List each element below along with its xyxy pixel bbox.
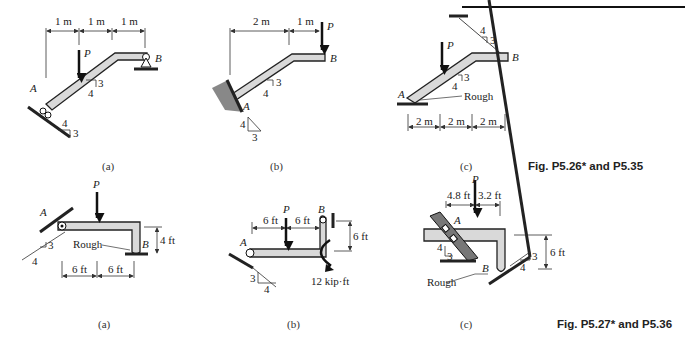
point-label: B xyxy=(142,238,149,250)
slope-triangle xyxy=(458,75,462,81)
slope-label: 3 xyxy=(73,127,79,139)
panel-label: (b) xyxy=(287,318,300,331)
slope-label: 3 xyxy=(276,76,282,88)
slope-label: 4 xyxy=(480,24,486,36)
figure-caption: Fig. P5.27* and P5.36 xyxy=(557,318,672,330)
panel-5-26-c: 4 3 B P A Rough 3 4 2 m 2 m 2 m (c) xyxy=(397,16,519,173)
panel-5-26-b: 2 m 1 m P B A 4 3 3 4 (b) xyxy=(212,15,337,173)
dim-label: 6 ft xyxy=(263,214,278,226)
slope-triangle xyxy=(258,272,276,283)
panel-5-27-b: 6 ft 6 ft A P B 12 kip·ft 6 ft 3 4 (b) xyxy=(229,203,368,331)
slope-label: 4 xyxy=(264,283,270,295)
dim-label: 1 m xyxy=(55,15,72,27)
point-label: A xyxy=(453,214,461,226)
point-label: A xyxy=(397,88,405,100)
dim-label: 6 ft xyxy=(72,263,87,275)
slope-label: 4 xyxy=(88,87,94,99)
dim-label: 3.2 ft xyxy=(478,189,501,201)
slope-label: 4 xyxy=(437,241,443,253)
point-label: A xyxy=(242,100,250,112)
slope-label: 4 xyxy=(263,87,269,99)
slope-label: 4 xyxy=(240,118,246,130)
panel-label: (a) xyxy=(102,160,115,173)
slope-label: 4 xyxy=(62,117,68,129)
pin-A xyxy=(246,249,254,257)
dim-label: 6 ft xyxy=(108,263,123,275)
load-label: P xyxy=(471,173,479,185)
dim-label: 6 ft xyxy=(295,214,310,226)
point-label: A xyxy=(29,82,37,94)
dim-label: 4 ft xyxy=(160,234,175,246)
load-label: P xyxy=(446,39,454,51)
dim-label: 6 ft xyxy=(353,230,368,242)
panel-label: (c) xyxy=(460,318,473,331)
slope-label: 3 xyxy=(532,250,538,262)
dim-label: 6 ft xyxy=(550,246,565,258)
dim-label: 1 m xyxy=(88,15,105,27)
dim-label: 2 m xyxy=(253,15,270,27)
incline-line xyxy=(22,232,65,260)
dim-label: 2 m xyxy=(448,115,465,127)
beam xyxy=(46,53,147,110)
slope-triangle xyxy=(267,80,273,86)
note-label: Rough xyxy=(73,238,103,250)
point-label: B xyxy=(330,52,337,64)
roller-icon xyxy=(45,112,51,118)
beam xyxy=(250,216,326,257)
leader-line xyxy=(102,245,130,250)
slope-label: 4 xyxy=(32,255,38,267)
panel-5-26-a: 1 m 1 m 1 m P B A 3 4 4 3 (a) xyxy=(28,15,162,173)
dim-label: 4.8 ft xyxy=(447,189,470,201)
dim-label: 2 m xyxy=(480,115,497,127)
point-label: B xyxy=(512,51,519,63)
slope-label: 3 xyxy=(98,77,104,89)
slope-label: 3 xyxy=(48,239,54,251)
load-label: P xyxy=(92,178,100,190)
slope-label: 3 xyxy=(447,250,453,262)
point-label: A xyxy=(39,206,47,218)
slope-label: 4 xyxy=(520,261,526,273)
slope-label: 3 xyxy=(464,71,470,83)
point-label: B xyxy=(482,262,489,274)
note-label: Rough xyxy=(427,276,457,288)
load-label: P xyxy=(282,203,290,215)
dim-label: 1 m xyxy=(297,15,314,27)
figure-caption: Fig. P5.26* and P5.35 xyxy=(528,160,644,172)
panel-label: (c) xyxy=(460,160,473,173)
slope-triangle xyxy=(248,117,261,131)
panel-label: (b) xyxy=(270,160,283,173)
dim-label: 2 m xyxy=(416,115,433,127)
load-label: P xyxy=(83,47,91,59)
pin-B xyxy=(320,217,326,223)
panel-5-27-a: A P B Rough 3 4 4 ft 6 ft 6 ft (a) xyxy=(22,178,175,331)
slope-label: 3 xyxy=(252,131,258,143)
point-label: B xyxy=(155,52,162,64)
note-label: Rough xyxy=(464,90,494,102)
point-label: B xyxy=(318,203,325,215)
panel-label: (a) xyxy=(98,318,111,331)
inclined-ground-B xyxy=(489,0,530,257)
moment-label: 12 kip·ft xyxy=(311,275,349,287)
pin-A-center xyxy=(61,225,64,228)
slope-label: 4 xyxy=(452,80,458,92)
figure-canvas: 1 m 1 m 1 m P B A 3 4 4 3 (a) 2 m 1 m P … xyxy=(0,0,685,345)
load-label: P xyxy=(326,20,334,32)
dim-label: 1 m xyxy=(121,15,138,27)
point-label: A xyxy=(239,236,247,248)
slope-label: 3 xyxy=(250,272,256,284)
leader-line xyxy=(420,96,462,100)
